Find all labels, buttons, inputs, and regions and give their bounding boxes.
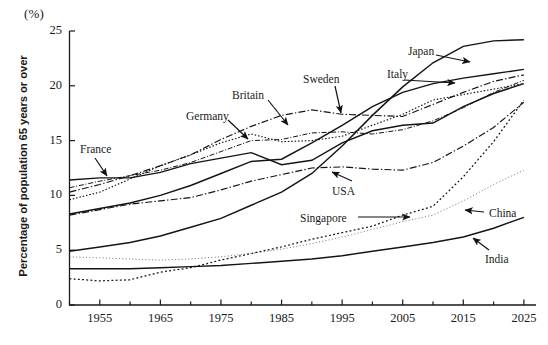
annotation-germany: Germany	[186, 110, 229, 122]
y-tick-5: 5	[36, 242, 62, 257]
annotation-japan: Japan	[408, 45, 434, 57]
y-tick-25: 25	[36, 23, 62, 38]
y-tick-15: 15	[36, 133, 62, 148]
annotation-italy: Italy	[387, 68, 408, 80]
chart-container: (%) Percentage of population 65 years or…	[0, 0, 548, 345]
series-line-japan	[70, 40, 524, 252]
leader-arrow-britain	[268, 100, 288, 125]
leader-arrow-usa	[332, 172, 352, 181]
chart-plot	[0, 0, 548, 345]
annotation-sweden: Sweden	[303, 73, 339, 85]
leader-arrow-china	[465, 210, 484, 212]
x-tick-2015: 2015	[440, 311, 486, 326]
x-tick-2025: 2025	[501, 311, 547, 326]
y-tick-20: 20	[36, 78, 62, 93]
annotation-usa: USA	[332, 185, 355, 197]
annotation-singapore: Singapore	[300, 212, 347, 224]
leader-arrow-india	[473, 238, 489, 250]
annotation-france: France	[80, 143, 111, 155]
annotation-britain: Britain	[232, 89, 264, 101]
leader-arrow-sweden	[335, 86, 341, 113]
y-tick-0: 0	[36, 297, 62, 312]
leader-arrow-germany	[228, 120, 248, 139]
x-tick-1975: 1975	[198, 311, 244, 326]
annotation-china: China	[489, 207, 516, 219]
x-tick-1995: 1995	[319, 311, 365, 326]
series-line-italy	[70, 69, 524, 214]
series-line-france	[70, 84, 524, 180]
y-tick-10: 10	[36, 187, 62, 202]
series-line-singapore	[70, 100, 524, 281]
x-tick-1955: 1955	[77, 311, 123, 326]
leader-arrow-france	[95, 158, 107, 176]
x-tick-2005: 2005	[380, 311, 426, 326]
x-tick-1965: 1965	[137, 311, 183, 326]
chart-series-group	[70, 40, 524, 281]
series-line-usa	[70, 102, 524, 215]
annotation-india: India	[485, 253, 509, 265]
x-tick-1985: 1985	[259, 311, 305, 326]
